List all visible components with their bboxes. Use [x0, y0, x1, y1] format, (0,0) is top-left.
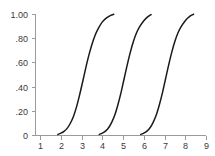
- y-tick-label: .40: [15, 83, 28, 93]
- x-tick-label: 2: [59, 141, 64, 151]
- x-tick-label: 7: [163, 141, 168, 151]
- y-tick-label: .80: [15, 34, 28, 44]
- x-tick-label: 6: [142, 141, 147, 151]
- x-tick-label: 8: [183, 141, 188, 151]
- x-tick-label: 5: [121, 141, 126, 151]
- x-tick-label: 9: [204, 141, 209, 151]
- x-tick-label: 3: [80, 141, 85, 151]
- y-tick-label: .60: [15, 58, 28, 68]
- y-tick-label: .20: [15, 107, 28, 117]
- y-tick-label: 1.00: [10, 10, 28, 20]
- y-tick-label: 0: [23, 131, 28, 141]
- x-tick-label: 4: [100, 141, 105, 151]
- x-tick-label: 1: [38, 141, 43, 151]
- ogive-curves-chart: 0.20.40.60.801.00 123456789: [0, 0, 215, 156]
- chart-container: 0.20.40.60.801.00 123456789: [0, 0, 215, 156]
